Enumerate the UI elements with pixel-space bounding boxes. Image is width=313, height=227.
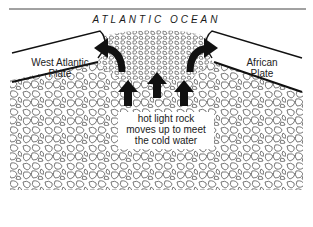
mid-ocean-ridge-diagram: ATLANTIC OCEAN West Atlantic Plate Afric… [0,0,313,227]
african-plate-label: African Plate [232,57,292,79]
african-plate-label-line1: African [232,57,292,68]
caption-box: hot light rock moves up to meet the cold… [118,112,214,149]
caption-line2: moves up to meet [118,124,214,135]
caption-line3: the cold water [118,135,214,146]
west-atlantic-plate-label: West Atlantic Plate [25,57,95,79]
ocean-label: ATLANTIC OCEAN [0,14,313,25]
west-plate-label-line1: West Atlantic [25,57,95,68]
caption-line1: hot light rock [118,113,214,124]
african-plate-label-line2: Plate [232,68,292,79]
west-plate-label-line2: Plate [25,68,95,79]
